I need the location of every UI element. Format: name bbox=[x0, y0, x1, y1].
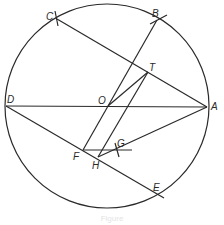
point-label-B: B bbox=[152, 8, 159, 19]
figure-caption: Figure bbox=[0, 214, 224, 223]
point-labels: ABCDEFGHOT bbox=[7, 8, 218, 193]
point-label-C: C bbox=[46, 11, 54, 22]
point-label-E: E bbox=[153, 182, 160, 193]
point-label-O: O bbox=[98, 95, 106, 106]
point-label-D: D bbox=[7, 94, 14, 105]
segment-OT bbox=[108, 72, 148, 106]
point-label-G: G bbox=[117, 138, 125, 149]
point-label-H: H bbox=[92, 160, 100, 171]
segment-HA bbox=[98, 107, 207, 157]
construction-diagram: ABCDEFGHOT bbox=[0, 0, 224, 225]
point-label-T: T bbox=[149, 62, 156, 73]
segment-DE bbox=[6, 106, 164, 198]
segments bbox=[6, 19, 207, 198]
segment-DA bbox=[6, 106, 207, 107]
geometry-figure: ABCDEFGHOT Figure bbox=[0, 0, 224, 225]
segment-FB bbox=[83, 20, 157, 150]
point-label-A: A bbox=[210, 101, 218, 112]
point-label-F: F bbox=[73, 151, 80, 162]
